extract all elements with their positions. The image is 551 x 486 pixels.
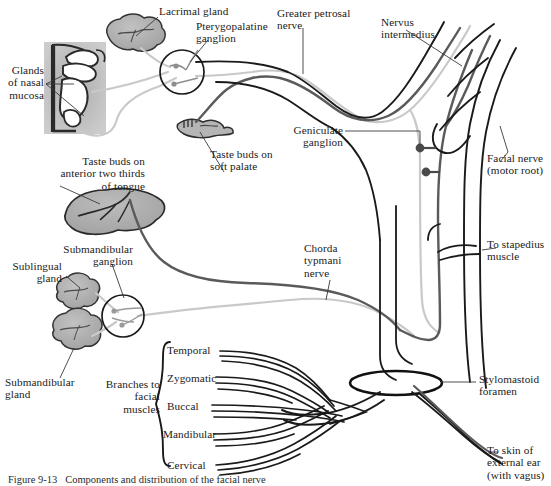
label-stylomastoid-foramen: Stylomastoid foramen: [479, 373, 539, 398]
facial-nerve-figure: Lacrimal gland Pterygopalatine ganglion …: [0, 0, 551, 486]
soft-palate-illustration: [177, 119, 233, 138]
motor-fibers-trunk: [196, 22, 516, 388]
label-lacrimal-gland: Lacrimal gland: [159, 5, 228, 17]
label-branches-to-facial-muscles: Branches to facial muscles: [82, 378, 160, 415]
label-to-skin-external-ear: To skin of external ear (with vagus): [487, 444, 544, 481]
figure-caption: Figure 9-13 Components and distribution …: [8, 474, 266, 486]
label-branch-zygomatic: Zygomatic: [167, 372, 216, 384]
submandibular-gland-illustration: [53, 308, 102, 349]
label-submandibular-gland: Submandibular gland: [5, 376, 75, 401]
nasal-cavity-illustration: [44, 42, 106, 134]
label-sublingual-gland: Sublingual gland: [0, 260, 62, 285]
label-taste-buds-soft-palate: Taste buds on soft palate: [210, 148, 273, 173]
lacrimal-gland-illustration: [107, 14, 165, 51]
stylomastoid-foramen-ellipse: [350, 371, 442, 395]
submandibular-ganglion-circle: [102, 295, 144, 337]
label-nervus-intermedius: Nervus intermedius: [381, 16, 435, 41]
label-geniculate-ganglion: Geniculate ganglion: [268, 124, 343, 149]
label-greater-petrosal-nerve: Greater petrosal nerve: [277, 7, 350, 32]
label-branch-buccal: Buccal: [167, 400, 199, 412]
taste-sensory-fibers: [130, 28, 490, 340]
sublingual-gland-illustration: [57, 273, 100, 309]
label-branch-mandibular: Mandibular: [163, 428, 216, 440]
label-facial-nerve-motor-root: Facial nerve (motor root): [487, 152, 543, 177]
label-branch-temporal: Temporal: [167, 344, 211, 356]
label-taste-buds-tongue: Taste buds on anterior two thirds of ton…: [0, 155, 145, 192]
label-chorda-tympani-nerve: Chorda typmani nerve: [304, 242, 341, 279]
label-to-stapedius-muscle: To stapedius muscle: [487, 238, 544, 263]
label-branch-cervical: Cervical: [167, 459, 206, 471]
label-pterygopalatine-ganglion: Pterygopalatine ganglion: [196, 20, 268, 45]
label-glands-of-nasal-mucosa: Glands of nasal mucosa: [0, 64, 44, 101]
